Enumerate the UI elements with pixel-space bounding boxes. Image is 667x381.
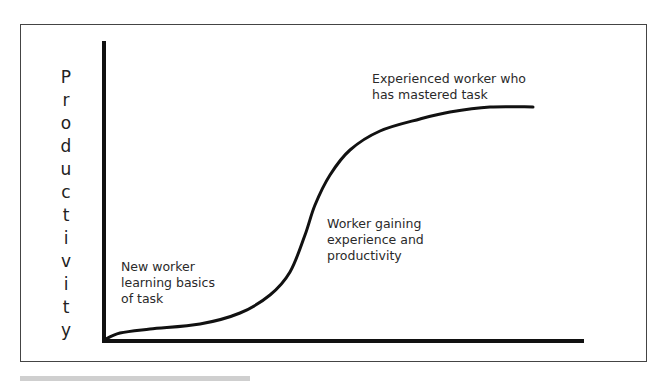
annotation-experienced-worker: Experienced worker who has mastered task (372, 71, 526, 103)
y-axis-label-letter: u (56, 158, 76, 181)
y-axis-label-letter: P (56, 66, 76, 89)
y-axis-label-letter: v (56, 250, 76, 273)
y-axis-label-letter: i (56, 227, 76, 250)
learning-curve-plot (0, 0, 667, 381)
y-axis-label-letter: d (56, 135, 76, 158)
y-axis-label-letter: o (56, 112, 76, 135)
y-axis-label: Productivity (56, 66, 76, 342)
y-axis-label-letter: y (56, 319, 76, 342)
y-axis-label-letter: i (56, 273, 76, 296)
y-axis-label-letter: t (56, 296, 76, 319)
annotation-gaining-experience: Worker gaining experience and productivi… (327, 216, 424, 264)
y-axis-label-letter: t (56, 204, 76, 227)
caption-bar (20, 376, 250, 381)
y-axis-label-letter: c (56, 181, 76, 204)
y-axis-label-letter: r (56, 89, 76, 112)
annotation-new-worker: New worker learning basics of task (121, 259, 215, 307)
